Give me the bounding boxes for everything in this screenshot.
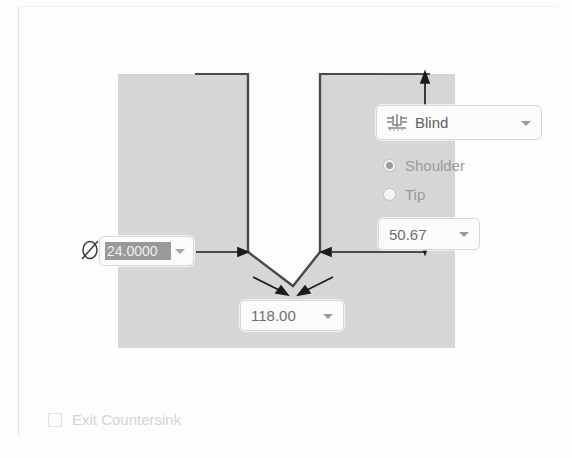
exit-countersink-checkbox-row[interactable]: Exit Countersink	[48, 411, 181, 428]
radio-label-shoulder: Shoulder	[405, 157, 465, 174]
radio-indicator-shoulder[interactable]	[383, 159, 396, 172]
depth-value: 50.67	[389, 226, 427, 243]
end-condition-dropdown[interactable]: Blind	[376, 105, 542, 140]
exit-countersink-checkbox[interactable]	[48, 413, 62, 427]
radio-label-tip: Tip	[405, 186, 425, 203]
diameter-value[interactable]: 24.0000	[105, 242, 171, 260]
chevron-down-icon[interactable]	[175, 249, 185, 254]
radio-depth-reference-shoulder[interactable]: Shoulder	[383, 157, 465, 174]
diameter-value-field[interactable]: 24.0000	[99, 236, 194, 266]
radio-depth-reference-tip[interactable]: Tip	[383, 186, 425, 203]
chevron-down-icon[interactable]	[323, 314, 333, 319]
drill-angle-value: 118.00	[251, 307, 296, 324]
hole-cross-section-drawing	[0, 0, 572, 458]
bore-outline	[248, 74, 320, 286]
diameter-symbol-icon	[79, 237, 101, 263]
blind-hole-icon	[385, 113, 409, 133]
radio-indicator-tip[interactable]	[383, 188, 396, 201]
exit-countersink-label: Exit Countersink	[72, 411, 181, 428]
depth-value-field[interactable]: 50.67	[378, 218, 480, 250]
chevron-down-icon[interactable]	[459, 232, 469, 237]
drill-angle-field[interactable]: 118.00	[240, 300, 344, 331]
chevron-down-icon[interactable]	[521, 121, 531, 126]
end-condition-value: Blind	[415, 114, 448, 131]
hole-specification-panel: Blind Shoulder Tip 50.67 24.0000 118.00 …	[0, 0, 572, 458]
